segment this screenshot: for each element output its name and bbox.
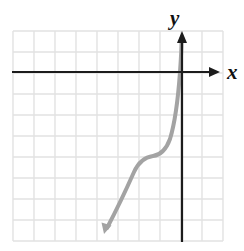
coordinate-plane-svg [0,0,244,251]
x-axis-arrowhead [209,67,220,77]
x-axis-label: x [227,62,238,83]
y-axis-arrowhead [177,31,187,43]
y-axis-label: y [170,8,179,29]
graph-figure: y x [0,0,244,251]
x-axis [12,67,220,77]
function-curve [102,33,187,234]
